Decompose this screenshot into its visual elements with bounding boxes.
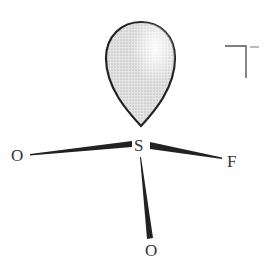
corner-t-mark xyxy=(225,46,259,78)
atom-o-left-label: O xyxy=(11,146,23,165)
atom-f-label: F xyxy=(227,152,236,171)
atom-o-bottom-label: O xyxy=(145,241,157,260)
bond-s-o-bottom xyxy=(140,157,153,239)
bond-s-f xyxy=(150,142,222,159)
molecule-diagram: S O F O xyxy=(0,0,266,270)
lone-pair-lobe xyxy=(106,22,175,126)
bond-s-o-left xyxy=(30,141,132,156)
atom-s-label: S xyxy=(134,136,143,155)
